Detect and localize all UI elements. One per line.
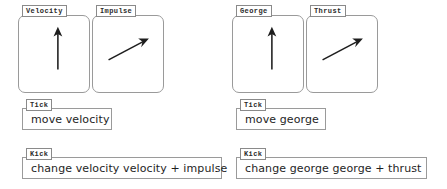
arrow-up-icon [233,16,303,92]
panel-tab-velocity[interactable]: Velocity [22,5,67,17]
diagram-canvas: Velocity Impulse Tick move velocity Kick… [0,0,447,189]
block-tab-kick-george[interactable]: Kick [240,148,266,160]
panel-tab-thrust[interactable]: Thrust [310,5,346,17]
vector-panel-thrust[interactable] [306,15,378,93]
vector-panel-george[interactable] [232,15,304,93]
vector-panel-velocity[interactable] [18,15,90,93]
block-tab-tick-george[interactable]: Tick [240,99,266,111]
panel-tab-impulse[interactable]: Impulse [96,5,136,17]
block-tab-kick-velocity[interactable]: Kick [26,148,52,160]
block-label: change george george + thrust [245,162,422,175]
block-label: change velocity velocity + impulse [31,162,227,175]
block-change-george[interactable]: change george george + thrust [236,157,427,179]
panel-tab-george[interactable]: George [236,5,272,17]
block-label: move velocity [31,113,110,126]
vector-panel-impulse[interactable] [92,15,164,93]
arrow-up-icon [19,16,89,92]
block-move-velocity[interactable]: move velocity [22,108,112,130]
arrow-up-right-icon [93,16,163,92]
block-label: move george [245,113,319,126]
block-change-velocity[interactable]: change velocity velocity + impulse [22,157,222,179]
arrow-up-right-icon [307,16,377,92]
block-move-george[interactable]: move george [236,108,326,130]
block-tab-tick-velocity[interactable]: Tick [26,99,52,111]
